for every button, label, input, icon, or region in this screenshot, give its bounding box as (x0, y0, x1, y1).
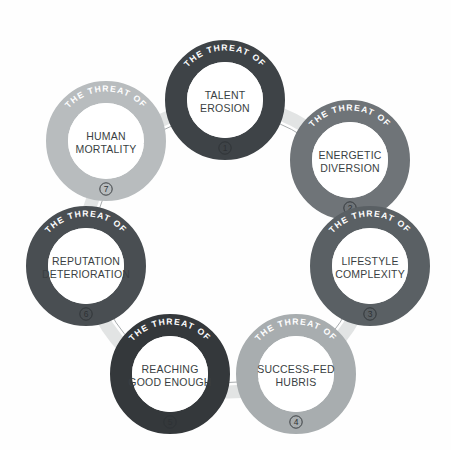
threat-number-text: 7 (104, 184, 109, 194)
threat-node-7[interactable]: THE THREAT OFHUMANMORTALITY7 (57, 83, 156, 195)
diagram-canvas: THE THREAT OFTALENTEROSION1THE THREAT OF… (0, 0, 451, 450)
threat-node-4[interactable]: THE THREAT OFSUCCESS-FEDHUBRIS4 (247, 316, 346, 428)
threat-node-5[interactable]: THE THREAT OFREACHINGGOOD ENOUGH5 (121, 316, 220, 428)
threat-node-1[interactable]: THE THREAT OFTALENTEROSION1 (176, 42, 275, 154)
threat-node-6[interactable]: THE THREAT OFREPUTATIONDETERIORATION6 (37, 208, 136, 320)
threat-number-text: 5 (168, 417, 173, 427)
threat-number-text: 6 (84, 309, 89, 319)
threat-number-text: 1 (223, 143, 228, 153)
threats-cycle-diagram: THE THREAT OFTALENTEROSION1THE THREAT OF… (0, 0, 451, 450)
threat-title: TALENTEROSION (200, 89, 250, 114)
threat-title: LIFESTYLECOMPLEXITY (335, 255, 405, 280)
threat-title: ENERGETICDIVERSION (318, 149, 381, 174)
threat-node-2[interactable]: THE THREAT OFENERGETICDIVERSION2 (301, 102, 400, 214)
threat-number-text: 3 (368, 309, 373, 319)
threat-node-3[interactable]: THE THREAT OFLIFESTYLECOMPLEXITY3 (321, 208, 420, 320)
threat-title: REPUTATIONDETERIORATION (42, 255, 130, 280)
threat-number-text: 4 (294, 417, 299, 427)
